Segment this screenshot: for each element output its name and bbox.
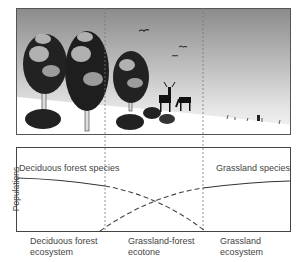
zone-label-ecotone-line1: Grassland-forest: [128, 236, 195, 247]
zone-label-grassland-line2: ecosystem: [220, 247, 263, 258]
zone-label-ecotone-line2: ecotone: [128, 247, 160, 258]
grassland-species-ecotone-line: [100, 188, 203, 231]
grassland-species-line: [203, 181, 290, 188]
zone-label-forest-line1: Deciduous forest: [30, 236, 98, 247]
deciduous-species-ecotone-line: [105, 186, 205, 231]
deciduous-species-line: [17, 178, 105, 186]
population-chart: [0, 0, 298, 262]
zone-label-forest-line2: ecosystem: [30, 247, 73, 258]
deciduous-species-label: Deciduous forest species: [19, 163, 120, 174]
grassland-species-label: Grassland species: [216, 163, 290, 174]
zone-label-grassland-line1: Grassland: [220, 236, 261, 247]
chart-frame: [17, 148, 291, 232]
